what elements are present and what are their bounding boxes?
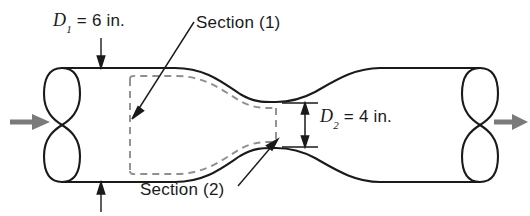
pipe-outlet-opening: [462, 68, 498, 182]
outlet-near-ellipse: [462, 68, 480, 182]
venturi-diagram: D1 = 6 in. D2 = 4 in. Section (1) Sectio…: [0, 0, 530, 216]
section2-leader-line: [238, 146, 272, 186]
d1-symbol: D: [53, 10, 66, 30]
pipe-outline: [62, 68, 480, 182]
inlet-flow-arrow-icon: [10, 114, 50, 130]
d1-top-arrowhead: [97, 56, 105, 68]
cv-top-far-wall: [130, 76, 276, 108]
outlet-far-cap-lower: [480, 125, 498, 182]
d2-arrowhead-up: [301, 103, 308, 114]
cv-bottom-far-wall: [130, 142, 276, 174]
inlet-near-cap: [44, 68, 62, 125]
pipe-inlet-opening: [44, 68, 80, 182]
section1-leader-line: [138, 22, 194, 110]
label-d2: D2 = 4 in.: [320, 106, 392, 128]
d2-symbol: D: [320, 106, 333, 126]
d1-subscript: 1: [66, 23, 72, 35]
d2-dimension: [282, 103, 318, 147]
outlet-far-cap: [480, 68, 498, 125]
d1-value: = 6 in.: [72, 11, 125, 30]
d1-bottom-arrowhead: [97, 182, 105, 194]
d2-value: = 4 in.: [339, 107, 392, 126]
section1-leader: [132, 22, 194, 119]
d2-arrowhead-down: [301, 136, 308, 147]
inlet-far-ellipse: [62, 68, 80, 182]
pipe-lower-wall: [62, 148, 480, 182]
pipe-upper-wall: [62, 68, 480, 102]
outlet-flow-arrow-icon: [494, 114, 528, 130]
d2-subscript: 2: [333, 119, 339, 131]
inlet-near-cap-lower: [44, 125, 62, 182]
flow-arrows: [10, 114, 528, 130]
label-section-2: Section (2): [140, 180, 224, 200]
label-section-1: Section (1): [196, 13, 280, 33]
control-volume-dashed: [130, 76, 276, 174]
label-d1: D1 = 6 in.: [53, 10, 125, 32]
section1-arrowhead: [132, 107, 144, 119]
d1-dimension-leaders: [97, 38, 105, 212]
